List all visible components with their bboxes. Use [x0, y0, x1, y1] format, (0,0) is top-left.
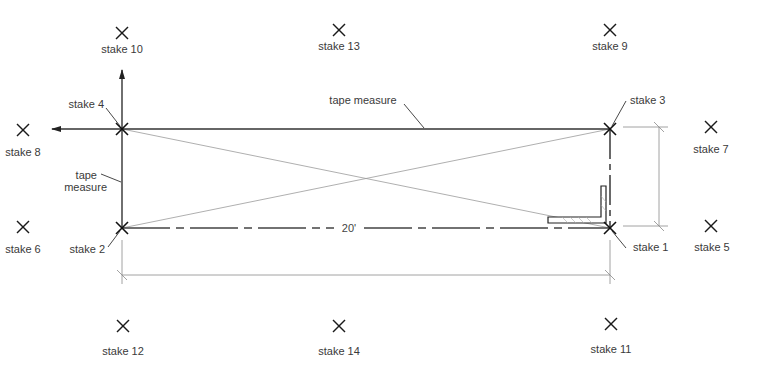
- stake-13-marker: [333, 24, 345, 36]
- label-stake-1: stake 1: [633, 241, 668, 253]
- stake-11-marker: [605, 318, 617, 330]
- label-tape-measure-top: tape measure: [329, 94, 396, 106]
- label-stake-9: stake 9: [592, 40, 627, 52]
- dimension-line-right: [623, 122, 668, 231]
- stake-7-marker: [705, 121, 717, 133]
- label-stake-6: stake 6: [5, 243, 40, 255]
- stake-9-marker: [604, 24, 616, 36]
- leader-stake-2: [108, 231, 120, 247]
- stake-8-marker: [17, 124, 29, 136]
- label-stake-4: stake 4: [69, 98, 104, 110]
- dimension-label-20ft: 20': [342, 222, 356, 234]
- dimension-line-bottom: [117, 240, 615, 284]
- carpenters-square: [548, 186, 606, 223]
- stake-14-marker: [333, 320, 345, 332]
- label-stake-5: stake 5: [694, 241, 729, 253]
- label-stake-14: stake 14: [318, 345, 360, 357]
- label-stake-12: stake 12: [102, 345, 144, 357]
- stake-10-marker: [116, 27, 128, 39]
- stake-12-marker: [117, 320, 129, 332]
- label-tape-measure-left-1: tape: [76, 169, 97, 181]
- label-stake-10: stake 10: [101, 43, 143, 55]
- stake-5-marker: [705, 220, 717, 232]
- label-stake-2: stake 2: [70, 243, 105, 255]
- stake-layout-diagram: 20': [0, 0, 775, 378]
- stake-6-marker: [17, 221, 29, 233]
- label-tape-measure-left-2: measure: [64, 181, 107, 193]
- label-stake-3: stake 3: [630, 94, 665, 106]
- label-stake-8: stake 8: [5, 146, 40, 158]
- label-stake-11: stake 11: [591, 343, 632, 355]
- leader-stake-4: [106, 108, 120, 126]
- leader-tape-measure-top: [404, 104, 424, 128]
- leader-stake-3: [612, 101, 626, 126]
- label-stake-13: stake 13: [318, 40, 360, 52]
- leader-stake-1: [612, 231, 626, 248]
- label-stake-7: stake 7: [693, 143, 728, 155]
